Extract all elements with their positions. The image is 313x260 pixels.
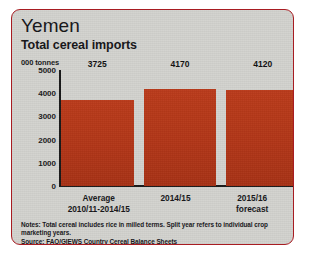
x-axis-category-labels: Average 2010/11-2014/15 2014/15 2015/16 … (61, 193, 290, 214)
bar-slot: 4120 (226, 70, 294, 186)
bar-slot: 4170 (144, 70, 217, 186)
chart-card: Yemen Total cereal imports 000 tonnes 50… (11, 9, 294, 245)
y-tick-label: 2000 (38, 135, 59, 144)
bar-value-label: 4170 (171, 59, 190, 69)
bar-value-label: 4120 (253, 59, 272, 69)
x-category-label: 2015/16 forecast (214, 193, 290, 214)
chart-page: Yemen Total cereal imports 000 tonnes 50… (0, 0, 313, 260)
notes-text: Notes: Total cereal includes rice in mil… (21, 221, 268, 236)
bar-slot: 3725 (61, 70, 134, 186)
y-tick-label: 5000 (38, 66, 59, 75)
x-category-label: 2014/15 (138, 193, 214, 214)
x-category-label: Average 2010/11-2014/15 (61, 193, 137, 214)
y-tick-label: 1000 (38, 158, 59, 167)
chart-subtitle: Total cereal imports (21, 38, 137, 52)
chart-footnotes: Notes: Total cereal includes rice in mil… (21, 221, 285, 245)
plot-area: 5000 4000 3000 2000 1000 0 3725 4170 (21, 67, 287, 193)
y-tick-label: 4000 (38, 89, 59, 98)
y-tick-label: 0 (52, 182, 59, 191)
source-text: Source: FAO/GIEWS Country Cereal Balance… (21, 238, 285, 245)
bar-value-label: 3725 (88, 59, 107, 69)
y-tick-label: 3000 (38, 112, 59, 121)
bar (61, 100, 134, 186)
chart-card-inner: Yemen Total cereal imports 000 tonnes 50… (12, 10, 293, 244)
bar-series: 3725 4170 4120 (61, 70, 294, 186)
bar (226, 90, 294, 186)
page-title: Yemen (21, 15, 80, 36)
bar (144, 89, 217, 186)
